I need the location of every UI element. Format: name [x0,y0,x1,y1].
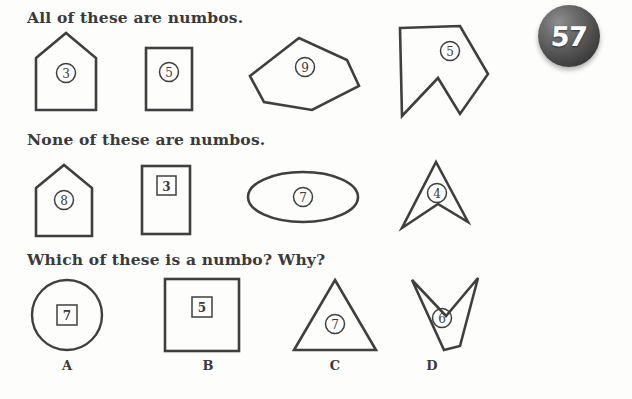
answer-choice-d[interactable]: 6 [404,274,488,356]
number-label: 5 [198,301,206,315]
shape-ellipse-7: 7 [244,166,362,228]
heading-question: Which of these is a numbo? Why? [27,250,325,269]
answer-choice-a[interactable]: 7 [26,276,110,354]
number-label: 7 [331,318,339,332]
shape-hexagon-9: 9 [246,32,364,114]
number-label: 7 [299,191,307,205]
worksheet-page: 57 All of these are numbos. 3 5 9 5 [0,0,632,399]
shape-arrowhead-4: 4 [392,156,482,236]
number-label: 5 [165,66,173,80]
number-label: 3 [62,67,70,81]
heading-negative-examples: None of these are numbos. [27,130,265,149]
answer-choice-b[interactable]: 5 [160,276,254,354]
square-outline [165,279,239,351]
number-label: 7 [63,309,71,323]
shape-arrow-flag-5: 5 [392,16,496,124]
choice-letter-a: A [55,358,79,373]
page-number-text: 57 [550,21,588,52]
answer-choice-c[interactable]: 7 [288,276,382,354]
page-number-badge: 57 [538,5,600,67]
number-label: 5 [446,45,454,59]
shape-rectangle-3: 3 [134,162,200,240]
number-label: 9 [301,61,309,75]
number-label: 8 [60,194,68,208]
heading-positive-examples: All of these are numbos. [27,8,243,27]
number-label: 6 [438,312,446,326]
shape-rectangle-5: 5 [138,44,200,116]
choice-letter-b: B [196,358,220,373]
number-label: 3 [162,180,170,194]
shape-pentagon-house-8: 8 [26,160,102,240]
arrow-flag-outline [400,26,488,116]
choice-letter-d: D [420,358,444,373]
choice-letter-c: C [323,358,347,373]
number-label: 4 [433,187,441,201]
shape-pentagon-house-3: 3 [26,28,106,116]
